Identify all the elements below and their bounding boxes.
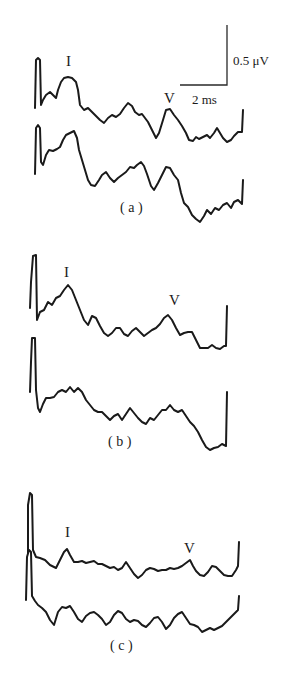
trace-b1 [30, 255, 227, 349]
panel-c: I V ( c ) [26, 493, 239, 654]
peak-I-label: I [66, 53, 71, 69]
panel-a-label: ( a ) [120, 200, 143, 216]
peak-V-label: V [184, 540, 195, 556]
panel-a: I V ( a ) [35, 53, 243, 222]
panel-c-label: ( c ) [110, 638, 133, 654]
panel-b-label: ( b ) [108, 434, 132, 450]
peak-V-label: V [164, 90, 175, 106]
scale-bar [180, 25, 227, 85]
trace-c1 [28, 493, 239, 578]
panel-b: I V ( b ) [30, 255, 227, 450]
scale-amplitude-label: 0.5 μV [233, 53, 269, 68]
peak-V-label: V [169, 292, 180, 308]
abr-figure: 0.5 μV 2 ms I V ( a ) I V ( b ) I V ( c … [0, 0, 308, 678]
scale-time-label: 2 ms [192, 92, 217, 107]
peak-I-label: I [64, 264, 69, 280]
peak-I-label: I [65, 524, 70, 540]
